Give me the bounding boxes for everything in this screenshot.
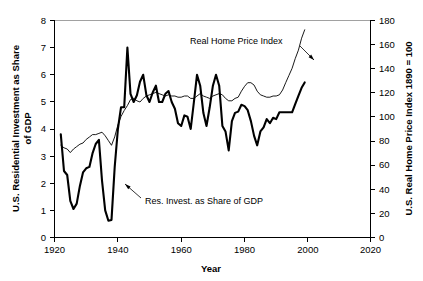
y-right-axis-title: U.S. Real Home Price Index 1890 = 100 [403,42,414,216]
x-tick-label: 1920 [44,244,65,255]
y-right-tick-label: 20 [379,208,390,219]
y-right-tick-label: 100 [379,111,395,122]
x-tick-label: 2000 [297,244,318,255]
annotation-real-home-price-index: Real Home Price Index [190,36,283,46]
x-tick-label: 1980 [234,244,255,255]
y-right-tick-label: 80 [379,135,390,146]
y-right-tick-label: 160 [379,39,395,50]
y-right-tick-label: 140 [379,63,395,74]
y-left-tick-label: 3 [41,151,46,162]
y-left-axis-title-line1: U.S. Residential Investment as Share [10,45,21,212]
y-right-tick-label: 0 [379,232,384,243]
y-left-tick-label: 2 [41,178,46,189]
y-left-tick-label: 0 [41,232,46,243]
y-left-axis-title-line2: of GDP [22,112,33,145]
x-tick-label: 2020 [360,244,381,255]
y-right-tick-label: 120 [379,87,395,98]
y-left-tick-label: 5 [41,96,46,107]
y-right-tick-label: 40 [379,184,390,195]
x-tick-label: 1940 [107,244,128,255]
y-left-tick-label: 8 [41,15,46,26]
y-left-tick-label: 7 [41,42,46,53]
annotation-res-invest-share-gdp: Res. Invest. as Share of GDP [145,196,263,206]
y-right-tick-label: 60 [379,159,390,170]
y-right-tick-label: 180 [379,15,395,26]
x-axis-title: Year [201,263,221,274]
y-left-tick-label: 6 [41,69,46,80]
y-left-tick-label: 4 [41,123,46,134]
y-left-tick-label: 1 [41,205,46,216]
chart-figure: 8 7 6 5 4 3 2 1 0 180 160 140 120 10 [0,0,423,281]
x-tick-label: 1960 [171,244,192,255]
chart-svg: 8 7 6 5 4 3 2 1 0 180 160 140 120 10 [0,0,423,281]
